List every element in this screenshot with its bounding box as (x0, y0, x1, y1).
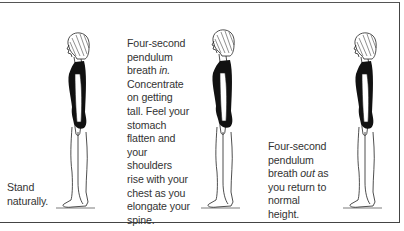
caption-line: normal (268, 194, 329, 208)
caption-line: tall. Feel your (127, 105, 190, 119)
caption-line: height. (268, 208, 329, 222)
caption-line: you return to (268, 181, 329, 195)
caption-line: pendulum (127, 51, 190, 65)
caption-line: flatten and (127, 132, 190, 146)
caption-text: breath (127, 64, 159, 76)
caption-breath-out: Four-second pendulum breath out as you r… (268, 140, 329, 222)
caption-line: elongate your (127, 200, 190, 214)
standing-woman-figure-3 (337, 32, 387, 210)
caption-line: breath in. (127, 64, 190, 78)
caption-line: your (127, 146, 190, 160)
caption-line: chest as you (127, 187, 190, 201)
caption-line: on getting (127, 91, 190, 105)
caption-line: Four-second (268, 140, 329, 154)
caption-emphasis: in. (159, 64, 170, 76)
caption-line: Stand (7, 181, 48, 195)
caption-line: spine. (127, 214, 190, 228)
woman-profile-icon (337, 32, 387, 210)
caption-line: shoulders (127, 159, 190, 173)
caption-text: breath (268, 167, 300, 179)
caption-breath-in: Four-second pendulum breath in. Concentr… (127, 37, 190, 227)
caption-line: pendulum (268, 154, 329, 168)
caption-line: naturally. (7, 195, 48, 209)
caption-line: breath out as (268, 167, 329, 181)
standing-woman-figure-1 (50, 32, 100, 210)
caption-line: Concentrate (127, 78, 190, 92)
standing-woman-figure-2 (195, 29, 245, 210)
woman-profile-icon (195, 29, 245, 210)
caption-text: as (315, 167, 329, 179)
caption-stand-naturally: Stand naturally. (7, 181, 48, 208)
caption-line: Four-second (127, 37, 190, 51)
caption-emphasis: out (300, 167, 314, 179)
caption-line: stomach (127, 119, 190, 133)
woman-profile-icon (50, 32, 100, 210)
caption-line: rise with your (127, 173, 190, 187)
